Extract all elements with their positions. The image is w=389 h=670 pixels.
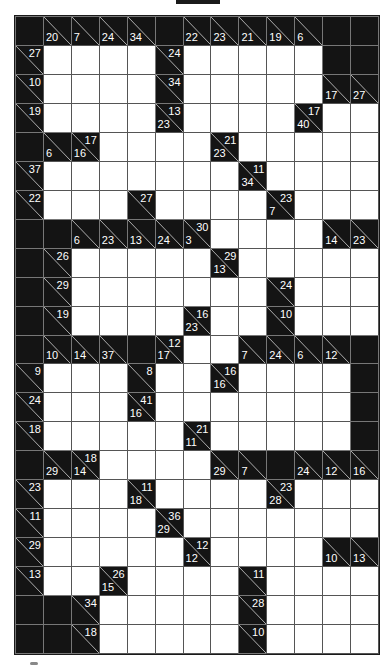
entry-cell[interactable] [239,249,266,277]
entry-cell[interactable] [323,596,350,624]
entry-cell[interactable] [239,75,266,103]
entry-cell[interactable] [211,104,238,132]
entry-cell[interactable] [295,278,322,306]
entry-cell[interactable] [184,364,211,392]
entry-cell[interactable] [295,133,322,161]
entry-cell[interactable] [267,75,294,103]
entry-cell[interactable] [128,104,155,132]
entry-cell[interactable] [295,162,322,190]
entry-cell[interactable] [100,509,127,537]
entry-cell[interactable] [156,451,183,479]
entry-cell[interactable] [351,162,378,190]
entry-cell[interactable] [44,480,71,508]
entry-cell[interactable] [211,220,238,248]
entry-cell[interactable] [351,191,378,219]
entry-cell[interactable] [351,596,378,624]
entry-cell[interactable] [295,191,322,219]
entry-cell[interactable] [295,480,322,508]
entry-cell[interactable] [44,75,71,103]
entry-cell[interactable] [295,596,322,624]
entry-cell[interactable] [100,191,127,219]
entry-cell[interactable] [323,393,350,421]
entry-cell[interactable] [184,480,211,508]
entry-cell[interactable] [44,393,71,421]
entry-cell[interactable] [323,422,350,450]
entry-cell[interactable] [128,509,155,537]
entry-cell[interactable] [44,104,71,132]
entry-cell[interactable] [211,538,238,566]
entry-cell[interactable] [156,278,183,306]
entry-cell[interactable] [128,307,155,335]
entry-cell[interactable] [72,480,99,508]
entry-cell[interactable] [184,46,211,74]
entry-cell[interactable] [184,278,211,306]
entry-cell[interactable] [239,393,266,421]
entry-cell[interactable] [295,46,322,74]
entry-cell[interactable] [72,393,99,421]
entry-cell[interactable] [267,162,294,190]
entry-cell[interactable] [100,480,127,508]
entry-cell[interactable] [239,307,266,335]
entry-cell[interactable] [351,480,378,508]
entry-cell[interactable] [267,393,294,421]
entry-cell[interactable] [267,422,294,450]
entry-cell[interactable] [351,278,378,306]
entry-cell[interactable] [184,191,211,219]
entry-cell[interactable] [100,538,127,566]
entry-cell[interactable] [100,422,127,450]
entry-cell[interactable] [184,509,211,537]
entry-cell[interactable] [100,249,127,277]
entry-cell[interactable] [72,75,99,103]
entry-cell[interactable] [267,567,294,595]
entry-cell[interactable] [156,393,183,421]
entry-cell[interactable] [295,75,322,103]
entry-cell[interactable] [239,133,266,161]
entry-cell[interactable] [44,567,71,595]
entry-cell[interactable] [72,249,99,277]
entry-cell[interactable] [184,336,211,364]
entry-cell[interactable] [156,567,183,595]
entry-cell[interactable] [239,480,266,508]
entry-cell[interactable] [267,596,294,624]
entry-cell[interactable] [44,364,71,392]
entry-cell[interactable] [323,567,350,595]
entry-cell[interactable] [267,104,294,132]
entry-cell[interactable] [351,307,378,335]
entry-cell[interactable] [128,278,155,306]
entry-cell[interactable] [295,567,322,595]
entry-cell[interactable] [211,307,238,335]
entry-cell[interactable] [267,220,294,248]
entry-cell[interactable] [211,75,238,103]
entry-cell[interactable] [72,307,99,335]
entry-cell[interactable] [128,625,155,653]
entry-cell[interactable] [323,162,350,190]
entry-cell[interactable] [128,249,155,277]
entry-cell[interactable] [184,249,211,277]
entry-cell[interactable] [72,567,99,595]
entry-cell[interactable] [351,104,378,132]
entry-cell[interactable] [156,133,183,161]
entry-cell[interactable] [267,625,294,653]
entry-cell[interactable] [156,596,183,624]
entry-cell[interactable] [184,567,211,595]
entry-cell[interactable] [267,538,294,566]
entry-cell[interactable] [100,307,127,335]
entry-cell[interactable] [211,162,238,190]
entry-cell[interactable] [267,46,294,74]
entry-cell[interactable] [100,278,127,306]
entry-cell[interactable] [323,104,350,132]
entry-cell[interactable] [211,480,238,508]
entry-cell[interactable] [239,191,266,219]
entry-cell[interactable] [44,46,71,74]
entry-cell[interactable] [295,364,322,392]
entry-cell[interactable] [239,104,266,132]
entry-cell[interactable] [295,509,322,537]
entry-cell[interactable] [44,422,71,450]
entry-cell[interactable] [295,393,322,421]
entry-cell[interactable] [156,422,183,450]
entry-cell[interactable] [72,364,99,392]
entry-cell[interactable] [128,596,155,624]
entry-cell[interactable] [128,133,155,161]
entry-cell[interactable] [128,162,155,190]
entry-cell[interactable] [156,307,183,335]
